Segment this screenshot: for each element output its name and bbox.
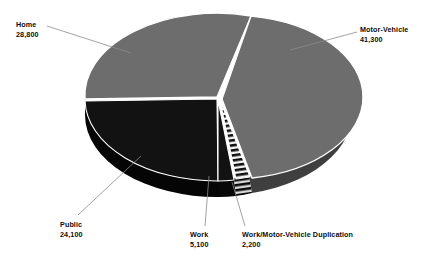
slice-label-work-value: 5,100 xyxy=(190,240,209,250)
slice-label-duplication: Work/Motor-Vehicle Duplication 2,200 xyxy=(242,230,353,249)
slice-label-home: Home 28,800 xyxy=(16,20,39,39)
leader-line-home xyxy=(47,26,131,53)
slice-label-work: Work 5,100 xyxy=(190,230,209,249)
pie-top-faces xyxy=(85,13,363,181)
pie-slice-public xyxy=(85,99,218,181)
slice-label-public-name: Public xyxy=(60,220,83,230)
slice-label-home-value: 28,800 xyxy=(16,30,39,40)
slice-label-duplication-name: Work/Motor-Vehicle Duplication xyxy=(242,230,353,240)
pie-slice-motor-vehicle xyxy=(222,16,363,178)
slice-label-motor-vehicle: Motor-Vehicle 41,300 xyxy=(360,25,408,44)
slice-label-motor-vehicle-name: Motor-Vehicle xyxy=(360,25,408,35)
slice-label-motor-vehicle-value: 41,300 xyxy=(360,35,408,45)
slice-label-public: Public 24,100 xyxy=(60,220,83,239)
slice-label-duplication-value: 2,200 xyxy=(242,240,353,250)
side-wall-work xyxy=(219,180,236,197)
slice-label-home-name: Home xyxy=(16,20,39,30)
slice-label-public-value: 24,100 xyxy=(60,230,83,240)
pie-chart: Home 28,800 Motor-Vehicle 41,300 Public … xyxy=(0,0,438,271)
leader-line-public xyxy=(78,156,141,215)
slice-label-work-name: Work xyxy=(190,230,209,240)
